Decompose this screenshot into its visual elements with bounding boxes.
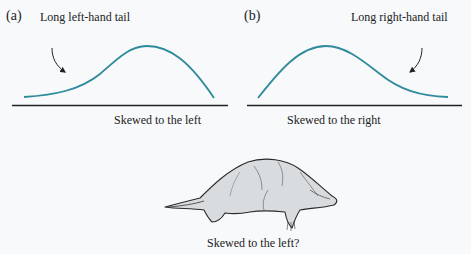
figure-drawing	[0, 0, 471, 254]
panel-b-letter: (b)	[244, 8, 260, 24]
illustration-caption: Skewed to the left?	[207, 236, 299, 251]
skewness-figure: (a) Long left-hand tail Skewed to the le…	[0, 0, 471, 254]
panel-b-tail-label: Long right-hand tail	[351, 10, 448, 25]
panel-b-curve	[258, 46, 448, 98]
panel-a-letter: (a)	[6, 8, 22, 24]
mole-body	[165, 159, 337, 228]
mole-illustration	[165, 159, 337, 231]
panel-b-caption: Skewed to the right	[287, 113, 381, 128]
panel-b-arrow-icon	[410, 48, 422, 72]
panel-a-tail-label: Long left-hand tail	[40, 10, 130, 25]
panel-a-arrow-icon	[52, 48, 65, 72]
panel-a-caption: Skewed to the left	[114, 113, 201, 128]
panel-b-plot	[247, 46, 462, 106]
panel-a-plot	[12, 46, 228, 106]
